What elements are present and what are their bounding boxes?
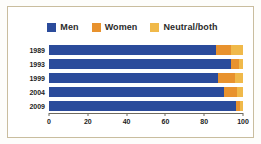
legend-swatch-neutral — [150, 23, 159, 32]
x-axis-tick — [126, 113, 127, 116]
x-axis-tick — [243, 113, 244, 116]
bar-segment-neutral-both — [237, 87, 243, 97]
bar-track — [49, 101, 243, 111]
x-axis-tick-label: 40 — [123, 118, 131, 125]
bar-segment-men — [49, 87, 224, 97]
legend-swatch-women — [92, 23, 101, 32]
bar-row: 1993 — [18, 57, 243, 71]
x-axis-tick — [204, 113, 205, 116]
x-axis-tick-label: 80 — [200, 118, 208, 125]
legend-item[interactable]: Men — [47, 23, 78, 32]
plot-area: 19891993199920042009 020406080100 — [18, 43, 243, 127]
bar-segment-neutral-both — [235, 73, 243, 83]
bar-track — [49, 73, 243, 83]
bar-segment-men — [49, 59, 231, 69]
bar-segment-men — [49, 101, 236, 111]
legend-label: Women — [105, 23, 138, 32]
bar-row: 2004 — [18, 85, 243, 99]
x-axis-tick — [87, 113, 88, 116]
y-axis-label: 2004 — [18, 89, 49, 96]
bar-track — [49, 87, 243, 97]
chart-frame: MenWomenNeutral/both 1989199319992004200… — [7, 6, 254, 138]
bar-segment-women — [216, 45, 232, 55]
bar-rows: 19891993199920042009 — [18, 43, 243, 113]
bar-segment-women — [218, 73, 235, 83]
legend-swatch-men — [47, 23, 56, 32]
x-axis-tick-label: 100 — [237, 118, 249, 125]
x-axis-tick — [165, 113, 166, 116]
y-axis-label: 1989 — [18, 47, 49, 54]
bar-row: 2009 — [18, 99, 243, 113]
x-axis-tick-label: 60 — [161, 118, 169, 125]
x-axis-tick-label: 20 — [84, 118, 92, 125]
x-axis-tick — [49, 113, 50, 116]
y-axis-label: 2009 — [18, 103, 49, 110]
x-axis-tick-label: 0 — [47, 118, 51, 125]
chart-screenshot: MenWomenNeutral/both 1989199319992004200… — [0, 0, 261, 144]
y-axis-label: 1993 — [18, 61, 49, 68]
legend-label: Men — [60, 23, 78, 32]
x-axis-line — [49, 113, 243, 114]
bar-segment-neutral-both — [231, 45, 243, 55]
bar-segment-women — [231, 59, 239, 69]
bar-row: 1989 — [18, 43, 243, 57]
y-axis-label: 1999 — [18, 75, 49, 82]
bar-track — [49, 45, 243, 55]
bar-segment-men — [49, 45, 216, 55]
bar-segment-men — [49, 73, 218, 83]
chart-legend: MenWomenNeutral/both — [22, 18, 243, 36]
legend-item[interactable]: Neutral/both — [150, 23, 217, 32]
bar-segment-women — [224, 87, 238, 97]
bar-segment-neutral-both — [239, 59, 243, 69]
bar-segment-neutral-both — [240, 101, 243, 111]
x-axis: 020406080100 — [49, 113, 243, 135]
legend-label: Neutral/both — [163, 23, 217, 32]
bar-track — [49, 59, 243, 69]
legend-item[interactable]: Women — [92, 23, 138, 32]
bar-row: 1999 — [18, 71, 243, 85]
